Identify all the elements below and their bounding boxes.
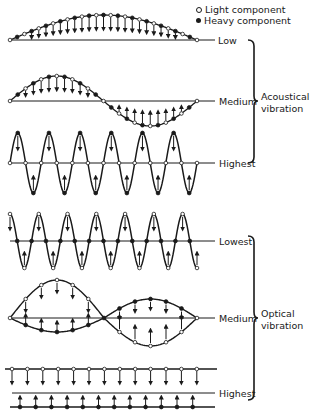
acoustical-highest-mode [8, 131, 215, 195]
group-label-acoustical: Acoustical vibration [261, 91, 309, 115]
acoustical-low-mode [8, 13, 215, 42]
acoustical-label-line1: Acoustical [261, 91, 309, 103]
optical-highest-mode [5, 367, 217, 409]
legend-light: Light component [196, 4, 291, 15]
group-label-optical: Optical vibration [261, 308, 303, 332]
legend-heavy: Heavy component [196, 15, 291, 26]
acoustical-medium-mode [8, 74, 215, 128]
acoustical-label-line2: vibration [261, 103, 309, 115]
legend: Light component Heavy component [196, 4, 291, 26]
mode-label-op-lowest: Lowest [219, 236, 252, 247]
lattice-vibration-diagram [0, 0, 312, 415]
mode-label-ac-medium: Medium [219, 96, 257, 107]
legend-heavy-label: Heavy component [204, 15, 291, 26]
optical-label-line2: vibration [261, 320, 303, 332]
legend-light-label: Light component [205, 4, 285, 15]
optical-lowest-mode [8, 212, 215, 270]
optical-label-line1: Optical [261, 308, 303, 320]
mode-label-op-medium: Medium [219, 313, 257, 324]
heavy-component-icon [196, 18, 201, 23]
light-component-icon [196, 7, 202, 13]
mode-label-ac-highest: Highest [219, 158, 255, 169]
mode-label-ac-low: Low [218, 35, 237, 46]
optical-medium-mode [8, 278, 215, 348]
mode-label-op-highest: Highest [219, 388, 255, 399]
